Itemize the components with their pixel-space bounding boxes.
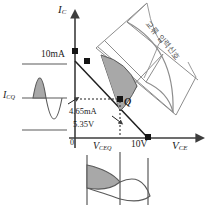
bottom-wave-negative-lobe — [120, 179, 150, 201]
icq-value-label: 4.65mA — [69, 107, 97, 116]
q-point-label: Q — [124, 97, 131, 107]
figure-canvas — [0, 0, 219, 212]
origin-label: 0 — [70, 139, 74, 147]
bottom-wave-positive-lobe — [87, 165, 120, 189]
vce-cutoff-label: 10V — [131, 140, 147, 150]
left-wave-positive-lobe — [33, 78, 46, 98]
left-waveform-group — [22, 64, 67, 130]
ic-saturation-label: 10mA — [41, 50, 65, 60]
y-axis-label: IC — [58, 4, 66, 16]
annotation-leader — [144, 3, 196, 78]
left-wave-negative-lobe — [46, 98, 62, 119]
icq-axis-label: ICQ — [3, 90, 15, 100]
load-line-figure: IC VCE 10mA 10V Q 4.65mA 5.35V 0 ICQ VCE… — [0, 0, 219, 212]
ic-sat-marker — [72, 48, 78, 54]
loadline-upper-marker — [84, 58, 90, 64]
ic-swing-shaded — [101, 55, 137, 111]
bottom-wave-tail — [87, 188, 120, 199]
bottom-waveform-group — [87, 152, 150, 205]
vceq-value-label: 5.35V — [73, 120, 94, 129]
x-axis-label: VCE — [172, 140, 187, 152]
vceq-axis-label: VCEQ — [93, 141, 111, 151]
